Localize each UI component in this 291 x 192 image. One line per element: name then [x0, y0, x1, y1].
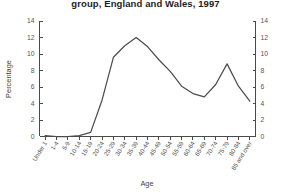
y-axis-left-tick-label: 2 [31, 116, 35, 123]
y-axis-right-tick-label: 6 [261, 83, 265, 90]
y-axis-right-tick-label: 8 [261, 67, 265, 74]
data-series-line [45, 38, 250, 137]
y-axis-left: 02468101214 [27, 17, 43, 139]
y-axis-left-tick-label: 0 [31, 133, 35, 140]
y-axis-left-tick-label: 10 [27, 50, 35, 57]
y-axis-left-tick-label: 12 [27, 34, 35, 41]
y-axis-left-tick-label: 8 [31, 67, 35, 74]
y-axis-right-tick-label: 10 [261, 50, 269, 57]
y-axis-left-tick-label: 14 [27, 17, 35, 24]
y-axis-right-tick-label: 2 [261, 116, 265, 123]
y-axis-left-tick-labels: 02468101214 [27, 17, 35, 139]
x-axis-tick-labels: Under 11-45-910-1415-1920-2425-2930-3435… [31, 139, 253, 171]
y-axis-right-tick-label: 4 [261, 100, 265, 107]
chart-figure: group, England and Wales, 1997 024681012… [0, 0, 291, 192]
y-axis-left-tick-label: 6 [31, 83, 35, 90]
line-chart-plot: 02468101214 02468101214 Under 11-45-910-… [0, 0, 291, 192]
x-axis-tick-label: 1-4 [49, 139, 60, 151]
y-axis-right-tick-label: 12 [261, 34, 269, 41]
x-axis: Under 11-45-910-1415-1920-2425-2930-3435… [31, 137, 256, 172]
y-axis-right-tick-labels: 02468101214 [261, 17, 269, 139]
y-axis-right-tick-label: 14 [261, 17, 269, 24]
y-axis-title: Percentage [4, 60, 13, 98]
x-axis-tick-label: Under 1 [31, 139, 49, 162]
x-axis-title: Age [140, 179, 153, 188]
y-axis-right: 02468101214 [253, 17, 269, 139]
y-axis-right-tick-label: 0 [261, 133, 265, 140]
y-axis-left-tick-label: 4 [31, 100, 35, 107]
